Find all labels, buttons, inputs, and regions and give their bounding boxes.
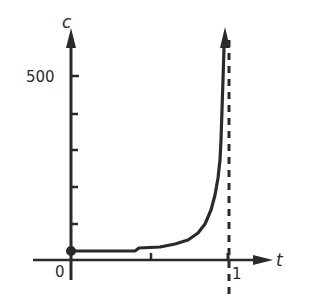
curve-arrow-icon: [220, 27, 230, 48]
origin-label: 0: [55, 263, 65, 281]
x-axis-label: t: [276, 250, 284, 270]
start-point-dot: [66, 246, 76, 256]
y-axis-label: c: [62, 12, 72, 32]
y-tick-label-500: 500: [26, 68, 55, 86]
x-axis-arrow-icon: [253, 255, 273, 265]
chart-canvas: c 500 0 1 t: [0, 0, 311, 303]
curve-c-of-t: [71, 48, 224, 251]
x-tick-label-1: 1: [232, 265, 242, 283]
